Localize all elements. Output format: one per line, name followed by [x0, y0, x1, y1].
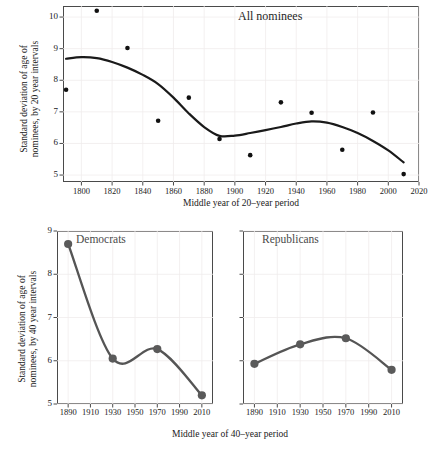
democrats-x-tick-2010: 2010	[185, 407, 219, 417]
bottom-y-axis-label: Standard deviation of age of nominees, b…	[17, 239, 39, 419]
top-y-tick-8: 8	[36, 74, 58, 84]
democrats-y-tick-6: 6	[35, 355, 52, 365]
top-plot-canvas	[63, 6, 419, 182]
bottom-x-axis-label: Middle year of 40–year period	[57, 429, 403, 439]
top-y-tick-9: 9	[36, 43, 58, 53]
top-y-tick-5: 5	[36, 169, 58, 179]
top-x-tick-2000: 2000	[371, 186, 405, 196]
top-y-tick-10: 10	[36, 11, 58, 21]
top-x-tick-2020: 2020	[402, 186, 432, 196]
democrats-y-tick-9: 9	[35, 225, 52, 235]
top-x-tick-1980: 1980	[341, 186, 375, 196]
democrats-y-tick-5: 5	[35, 398, 52, 408]
top-y-tick-6: 6	[36, 137, 58, 147]
top-x-tick-1880: 1880	[187, 186, 221, 196]
republicans-panel-title: Republicans	[262, 233, 319, 245]
top-x-tick-1900: 1900	[218, 186, 252, 196]
top-x-tick-1960: 1960	[310, 186, 344, 196]
top-x-tick-1860: 1860	[156, 186, 190, 196]
figure-root: { "figure": { "panels": ["All nominees",…	[0, 0, 432, 449]
democrats-y-tick-7: 7	[35, 312, 52, 322]
top-panel-title: All nominees	[238, 9, 302, 24]
top-x-tick-1940: 1940	[279, 186, 313, 196]
democrats-plot-canvas	[57, 231, 213, 404]
top-x-tick-1800: 1800	[64, 186, 98, 196]
top-x-tick-1920: 1920	[249, 186, 283, 196]
bottom-y-axis-label-line1: Standard deviation of age of	[17, 275, 27, 383]
republicans-plot-canvas	[243, 231, 403, 404]
top-x-axis-label: Middle year of 20–year period	[63, 198, 419, 208]
democrats-y-tick-8: 8	[35, 268, 52, 278]
top-y-axis-label-line1: Standard deviation of age of	[19, 45, 29, 153]
democrats-panel-title: Democrats	[76, 233, 126, 245]
top-y-axis-label: Standard deviation of age of nominees, b…	[19, 9, 41, 189]
bottom-y-axis-label-line2: nominees, by 40 year intervals	[28, 271, 38, 387]
republicans-x-tick-2010: 2010	[375, 407, 409, 417]
top-x-tick-1840: 1840	[126, 186, 160, 196]
top-y-tick-7: 7	[36, 106, 58, 116]
top-x-tick-1820: 1820	[95, 186, 129, 196]
